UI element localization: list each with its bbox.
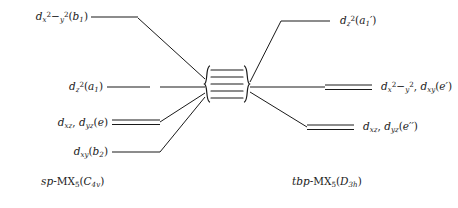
correlation-line-left-4 bbox=[160, 97, 205, 152]
correlation-line-right-1 bbox=[250, 21, 281, 82]
correlation-line-right-3 bbox=[250, 92, 307, 127]
right-caption: tbp-MX5(D3h) bbox=[292, 176, 362, 188]
right-level-3-label: dxz, dyz(e′′) bbox=[363, 121, 418, 133]
orbital-correlation-diagram: dx2−y2(b1) dz2(a1) dxz, dyz(e) dxy(b2) d… bbox=[0, 0, 458, 208]
brace-left bbox=[205, 66, 210, 102]
right-level-2-label: dx2−y2, dxy(e′) bbox=[381, 81, 452, 93]
brace-right bbox=[245, 66, 250, 102]
left-caption: sp-MX5(C4v) bbox=[41, 176, 104, 188]
left-level-3-label: dxz, dyz(e) bbox=[4, 117, 108, 129]
left-level-1-label: dx2−y2(b1) bbox=[4, 11, 88, 23]
right-level-1-label: dz2(a1′) bbox=[340, 15, 376, 27]
left-level-2-label: dz2(a1) bbox=[4, 81, 103, 93]
correlation-line-left-1 bbox=[138, 18, 205, 79]
left-level-4-label: dxy(b2) bbox=[4, 146, 108, 158]
correlation-line-left-3 bbox=[160, 93, 205, 122]
